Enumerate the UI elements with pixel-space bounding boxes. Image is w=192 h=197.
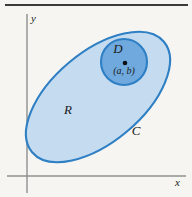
figure-canvas: y x D (a, b) R C [0,0,192,197]
region-d-label: D [112,41,123,56]
region-r-label: R [63,102,72,117]
math-figure: y x D (a, b) R C [0,0,192,197]
curve-c-label: C [132,123,141,138]
region-r-ellipse [3,7,192,187]
y-axis-label: y [30,12,36,24]
x-axis-label: x [174,176,180,188]
center-point-label: (a, b) [113,65,135,77]
